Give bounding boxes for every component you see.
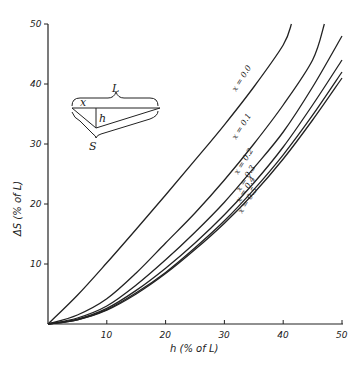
x-tick-label: 30	[218, 330, 230, 340]
x-tick-label: 10	[101, 330, 113, 340]
S-label: S	[89, 140, 97, 153]
L-label: L	[111, 82, 119, 95]
y-tick-label: 30	[30, 139, 42, 149]
y-ticks: 1020304050	[30, 19, 48, 269]
curves	[48, 24, 342, 324]
x-axis-title: h (% of L)	[170, 343, 218, 354]
S-brace	[72, 111, 158, 138]
y-axis-title: ΔS (% of L)	[12, 181, 23, 237]
y-tick-label: 40	[30, 79, 42, 89]
y-tick-label: 10	[30, 259, 42, 269]
h-label: h	[99, 112, 106, 125]
x-tick-label: 50	[336, 330, 348, 340]
y-tick-label: 50	[30, 19, 42, 29]
curve-x-0-0	[48, 24, 291, 324]
x-ticks: 1020304050	[101, 320, 348, 340]
curve-x-0-2	[48, 36, 342, 324]
curve-x-0-5	[48, 78, 342, 324]
y-tick-label: 20	[30, 199, 42, 209]
x-label: x	[80, 96, 87, 109]
curve-label: x = 0.1	[230, 112, 253, 141]
x-tick-label: 20	[160, 330, 172, 340]
x-tick-label: 40	[277, 330, 289, 340]
curve-x-0-3	[48, 60, 342, 324]
curve-label: x = 0.0	[230, 64, 253, 93]
curve-x-0-1	[48, 24, 324, 324]
chart: 1020304050 1020304050 h (% of L) ΔS (% o…	[0, 0, 361, 365]
